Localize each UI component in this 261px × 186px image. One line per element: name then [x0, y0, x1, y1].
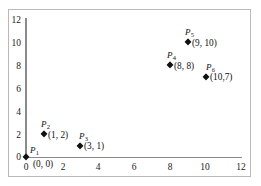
- x-tick-label: 6: [127, 163, 141, 173]
- plot-area: 12 10 8 6 4 2 0 0 2 4 6 8 10 12 P1 (0, 0…: [0, 0, 261, 186]
- y-tick-label: 0: [7, 153, 21, 163]
- data-point-coordinate: (8, 8): [174, 62, 194, 71]
- data-point-marker[interactable]: [166, 61, 173, 68]
- data-point-name: P4: [167, 51, 176, 60]
- data-point-marker[interactable]: [22, 153, 29, 160]
- data-point-name: P5: [185, 28, 194, 37]
- data-point-marker[interactable]: [76, 142, 83, 149]
- data-point-coordinate: (3, 1): [84, 142, 104, 151]
- point-index: 2: [47, 123, 50, 130]
- data-point-marker[interactable]: [40, 130, 47, 137]
- x-tick-label: 0: [19, 163, 33, 173]
- data-point-coordinate: (1, 2): [48, 131, 68, 140]
- x-axis-line: [25, 157, 242, 159]
- y-tick-label: 6: [7, 85, 21, 95]
- data-point-coordinate: (9, 10): [192, 39, 217, 48]
- point-letter: P: [167, 50, 173, 60]
- point-letter: P: [206, 62, 212, 72]
- x-tick-label: 2: [56, 163, 70, 173]
- y-tick-label: 8: [7, 62, 21, 72]
- scatter-plot-figure: 12 10 8 6 4 2 0 0 2 4 6 8 10 12 P1 (0, 0…: [0, 0, 261, 186]
- data-point-name: P2: [41, 120, 50, 129]
- point-index: 5: [191, 31, 194, 38]
- point-letter: P: [30, 145, 36, 155]
- data-point-coordinate: (0, 0): [33, 160, 53, 169]
- x-tick-label: 4: [91, 163, 105, 173]
- point-letter: P: [185, 27, 191, 37]
- data-point-name: P6: [206, 63, 215, 72]
- point-letter: P: [41, 119, 47, 129]
- point-index: 1: [36, 149, 39, 156]
- point-letter: P: [79, 131, 85, 141]
- data-point-coordinate: (10,7): [210, 73, 232, 82]
- x-tick-label: 10: [198, 163, 212, 173]
- data-point-name: P3: [79, 132, 88, 141]
- y-tick-label: 12: [7, 16, 21, 26]
- y-tick-label: 10: [7, 39, 21, 49]
- y-axis-line: [25, 18, 27, 158]
- y-tick-label: 4: [7, 108, 21, 118]
- y-tick-label: 2: [7, 131, 21, 141]
- data-point-marker[interactable]: [202, 73, 209, 80]
- data-point-name: P1: [30, 146, 39, 155]
- point-index: 4: [173, 54, 176, 61]
- x-tick-label: 8: [163, 163, 177, 173]
- data-point-marker[interactable]: [184, 38, 191, 45]
- x-tick-label: 12: [234, 163, 248, 173]
